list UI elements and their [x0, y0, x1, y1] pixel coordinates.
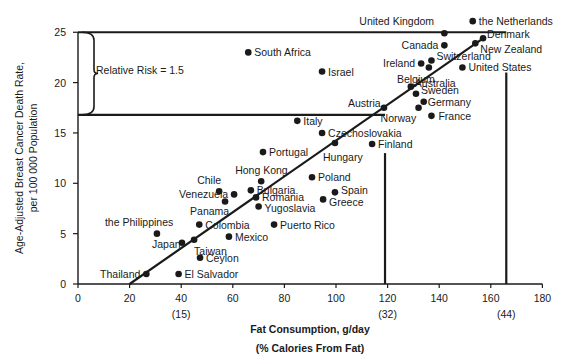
y-tick-label: 5 — [60, 228, 66, 240]
point-marker — [143, 271, 150, 278]
x-tick-label: 0 — [75, 292, 81, 304]
point-marker — [369, 141, 376, 148]
x-tick-percent-label: (32) — [378, 308, 397, 320]
point-label: Canada — [402, 39, 439, 51]
point-label: Israel — [328, 66, 354, 78]
chart-svg: 020406080100120140160180(15)(32)(44)0510… — [0, 0, 562, 364]
point-label: Puerto Rico — [280, 219, 335, 231]
point-label: Germany — [428, 96, 472, 108]
data-point: Portugal — [260, 146, 308, 158]
point-marker — [271, 221, 278, 228]
point-marker — [226, 233, 233, 240]
data-point: Yugoslavia — [255, 202, 315, 214]
point-marker — [320, 196, 327, 203]
point-label: United Kingdom — [359, 15, 434, 27]
x-axis-title: Fat Consumption, g/day — [250, 323, 370, 335]
point-marker — [216, 188, 223, 195]
y-tick-label: 0 — [60, 278, 66, 290]
point-label: United States — [468, 61, 531, 73]
data-point: Mexico — [226, 231, 269, 243]
point-label: El Salvador — [185, 268, 239, 280]
x-tick-label: 180 — [534, 292, 552, 304]
point-marker — [418, 60, 425, 67]
x-tick-label: 160 — [482, 292, 500, 304]
point-marker — [420, 98, 427, 105]
point-marker — [413, 90, 420, 97]
point-label: Italy — [303, 115, 323, 127]
data-point: the Netherlands — [469, 15, 552, 27]
data-point: Venezuela — [179, 188, 237, 200]
point-marker — [332, 140, 339, 147]
data-point: United Kingdom — [359, 15, 447, 36]
data-point: Puerto Rico — [271, 219, 335, 231]
data-point: Greece — [320, 196, 364, 208]
data-point: Taiwan — [191, 236, 227, 256]
point-label: Poland — [318, 171, 351, 183]
data-point: Italy — [294, 115, 323, 127]
point-label: New Zealand — [480, 43, 542, 55]
point-label: Yugoslavia — [265, 202, 316, 214]
data-point: Japan — [152, 238, 185, 250]
point-label: Chile — [197, 174, 221, 186]
point-label: Spain — [341, 184, 368, 196]
data-point: El Salvador — [175, 268, 238, 280]
point-marker — [248, 187, 255, 194]
point-marker — [426, 64, 433, 71]
point-label: Colombia — [205, 219, 250, 231]
x-tick-percent-label: (44) — [497, 308, 516, 320]
data-point: South Africa — [245, 46, 311, 58]
data-point: Hong Kong — [235, 164, 288, 184]
point-marker — [319, 130, 326, 137]
data-point: Panama — [190, 198, 229, 217]
point-label: Austria — [348, 97, 381, 109]
x-tick-percent-label: (15) — [172, 308, 191, 320]
x-tick-label: 140 — [430, 292, 448, 304]
relative-risk-annotation: Relative Risk = 1.5 — [96, 64, 184, 76]
data-point: Austria — [348, 97, 387, 111]
x-tick-label: 80 — [279, 292, 291, 304]
point-label: Japan — [152, 238, 181, 250]
point-marker — [231, 191, 238, 198]
x-tick-label: 60 — [227, 292, 239, 304]
point-label: France — [438, 110, 471, 122]
y-tick-label: 10 — [54, 177, 66, 189]
x-tick-label: 120 — [379, 292, 397, 304]
point-marker — [309, 174, 316, 181]
point-label: Norway — [381, 112, 417, 124]
x-tick-label: 40 — [175, 292, 187, 304]
y-tick-label: 20 — [54, 77, 66, 89]
data-point: Spain — [332, 184, 368, 196]
y-axis-title: Age-Adjusted Breast Cancer Death Rate, — [13, 62, 25, 254]
point-label: the Philippines — [105, 216, 173, 228]
x-axis-subtitle: (% Calories From Fat) — [256, 342, 365, 354]
point-label: South Africa — [254, 46, 311, 58]
point-marker — [191, 236, 198, 243]
point-marker — [258, 178, 265, 185]
data-point: United States — [459, 61, 531, 73]
point-label: Panama — [190, 205, 229, 217]
data-point: Denmark — [480, 28, 531, 41]
point-marker — [175, 271, 182, 278]
point-label: Denmark — [487, 28, 530, 40]
point-label: Ireland — [383, 57, 415, 69]
data-point: Poland — [309, 171, 351, 183]
point-marker — [294, 118, 301, 125]
point-marker — [459, 64, 466, 71]
point-marker — [441, 42, 448, 49]
x-tick-label: 20 — [124, 292, 136, 304]
point-marker — [255, 203, 262, 210]
data-point: France — [428, 110, 471, 122]
data-point: Hungary — [323, 140, 363, 163]
point-marker — [480, 35, 487, 42]
point-label: Thailand — [100, 268, 140, 280]
point-marker — [428, 57, 435, 64]
point-marker — [196, 221, 203, 228]
y-tick-label: 15 — [54, 127, 66, 139]
data-point: Germany — [420, 96, 471, 108]
scatter-chart: 020406080100120140160180(15)(32)(44)0510… — [0, 0, 562, 364]
point-marker — [381, 104, 388, 111]
point-label: Greece — [329, 196, 364, 208]
point-label: Portugal — [269, 146, 308, 158]
point-label: Mexico — [235, 231, 268, 243]
data-point: Colombia — [196, 219, 250, 231]
